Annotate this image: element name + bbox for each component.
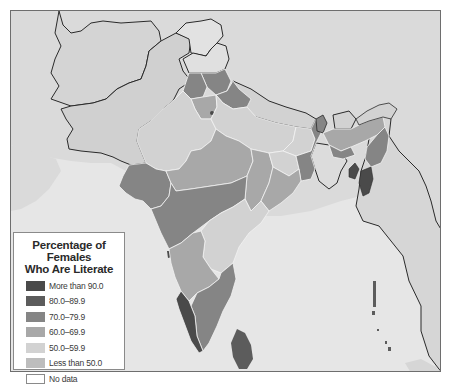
- legend-label: No data: [49, 374, 77, 384]
- legend-swatch: [26, 358, 45, 368]
- legend-item: More than 90.0: [20, 278, 118, 294]
- legend-swatch: [26, 296, 45, 306]
- legend-swatch: [26, 312, 45, 322]
- legend-title-line1: Percentage of Females: [20, 239, 118, 263]
- legend-swatch: [26, 343, 45, 353]
- island: [385, 341, 387, 344]
- legend-item: 70.0–79.9: [20, 309, 118, 325]
- legend-item: 60.0–69.9: [20, 325, 118, 341]
- legend-label: Less than 50.0: [49, 358, 102, 368]
- legend-title-line2: Who Are Literate: [20, 263, 118, 275]
- legend-item: No data: [20, 371, 118, 387]
- island: [377, 329, 379, 331]
- legend-item: 50.0–59.9: [20, 340, 118, 356]
- legend: Percentage of Females Who Are Literate M…: [13, 232, 125, 370]
- legend-label: More than 90.0: [49, 281, 103, 291]
- legend-label: 60.0–69.9: [49, 327, 85, 337]
- legend-label: 80.0–89.9: [49, 296, 85, 306]
- island: [372, 311, 375, 315]
- legend-title: Percentage of Females Who Are Literate: [20, 239, 118, 275]
- legend-item: 80.0–89.9: [20, 294, 118, 310]
- legend-swatch: [26, 374, 45, 384]
- andaman-islands: [373, 281, 376, 307]
- legend-label: 70.0–79.9: [49, 312, 85, 322]
- legend-swatch: [26, 281, 45, 291]
- legend-swatch: [26, 327, 45, 337]
- legend-label: 50.0–59.9: [49, 343, 85, 353]
- legend-item: Less than 50.0: [20, 356, 118, 372]
- island: [388, 347, 391, 351]
